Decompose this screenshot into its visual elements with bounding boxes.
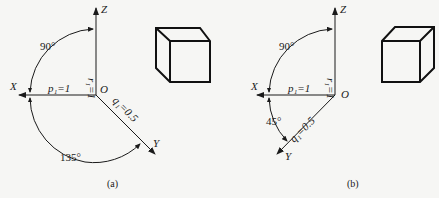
coef-q: q₁=0.5 [287, 114, 317, 144]
oblique-projection-figure: Z X Y O p₁=1 r₁=1 q₁=0.5 90° 135° (a) Z … [0, 0, 439, 198]
arc-tick-top [28, 88, 32, 93]
y-axis-label: Y [285, 150, 293, 162]
angle-label-90: 90° [279, 40, 294, 52]
z-axis-label: Z [340, 3, 347, 15]
coef-p: p₁=1 [287, 82, 310, 94]
arc-tick-bottom [267, 97, 271, 102]
x-axis-label: X [9, 80, 18, 92]
origin-label: O [341, 88, 349, 100]
z-axis-label: Z [101, 3, 108, 15]
coef-p: p₁=1 [47, 82, 70, 94]
panel-b: Z X Y O p₁=1 r₁=1 q₁=0.5 90° 45° (b) [250, 3, 434, 190]
arc-tick-top [267, 88, 271, 93]
caption-b: (b) [347, 178, 359, 190]
angle-label-45: 45° [266, 115, 281, 127]
coef-q: q₁=0.5 [111, 94, 141, 124]
angle-label-90: 90° [40, 40, 55, 52]
coef-r: r₁=1 [86, 78, 98, 99]
angle-label-135: 135° [60, 151, 81, 163]
caption-a: (a) [107, 178, 118, 190]
arc-tick-bottom [28, 97, 32, 102]
angle-arc-135-end [85, 144, 140, 163]
cube-b [382, 27, 434, 82]
y-axis-label: Y [153, 137, 161, 149]
panel-a: Z X Y O p₁=1 r₁=1 q₁=0.5 90° 135° (a) [9, 3, 210, 190]
coef-r: r₁=1 [325, 78, 337, 99]
x-axis-label: X [250, 80, 259, 92]
origin-label: O [100, 83, 108, 95]
cube-a [156, 28, 210, 82]
